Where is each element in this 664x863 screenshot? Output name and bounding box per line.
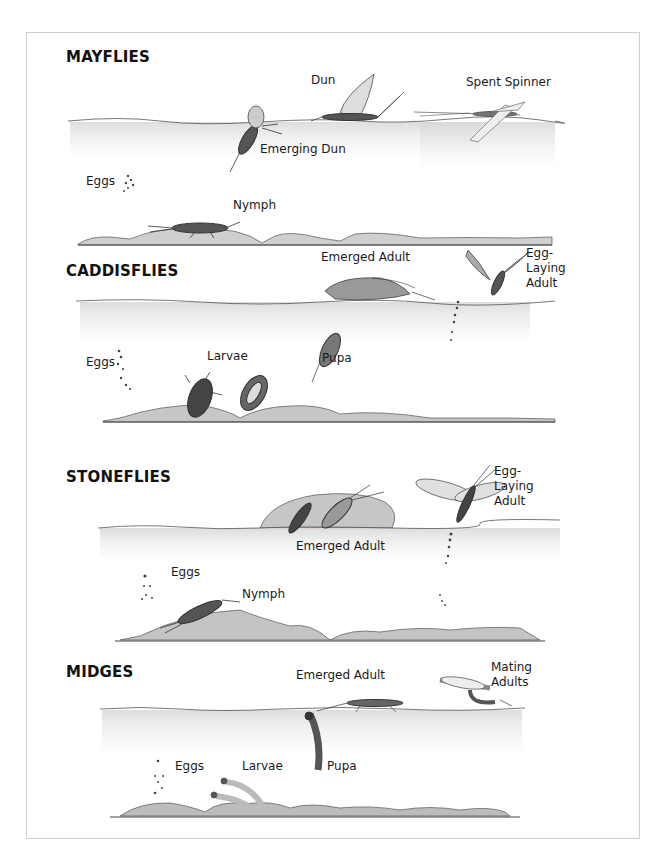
stream-bed	[120, 803, 510, 816]
label-midge-pupa: Pupa	[327, 759, 357, 774]
eggs-cluster	[123, 175, 134, 192]
stream-bed	[78, 228, 552, 245]
label-mayfly-emerging-dun: Emerging Dun	[260, 142, 346, 157]
label-midge-larvae: Larvae	[242, 759, 283, 774]
label-caddis-pupa: Pupa	[322, 351, 352, 366]
label-caddis-egg-laying-adult: Egg- Laying Adult	[526, 246, 566, 291]
caddis-emerged-adult	[325, 278, 435, 300]
eggs-cluster	[117, 350, 131, 390]
label-stonefly-emerged-adult: Emerged Adult	[296, 539, 385, 554]
label-stonefly-eggs: Eggs	[171, 565, 200, 580]
label-midge-emerged-adult: Emerged Adult	[296, 668, 385, 683]
label-midge-eggs: Eggs	[175, 759, 204, 774]
label-stonefly-egg-laying-adult: Egg- Laying Adult	[494, 464, 534, 509]
eggs-cluster	[141, 574, 153, 600]
midges-scene	[100, 674, 525, 817]
section-heading-stoneflies: STONEFLIES	[66, 468, 171, 486]
water-wash	[80, 302, 530, 340]
label-mayfly-spent-spinner: Spent Spinner	[466, 75, 551, 90]
section-heading-mayflies: MAYFLIES	[66, 48, 150, 66]
label-midge-mating-adults: Mating Adults	[491, 660, 532, 690]
stream-bed	[103, 405, 555, 422]
section-heading-caddisflies: CADDISFLIES	[66, 262, 179, 280]
mayflies-scene	[68, 74, 565, 245]
eggs-cluster	[154, 760, 164, 795]
label-mayfly-dun: Dun	[311, 73, 335, 88]
insect-life-cycle-illustration	[0, 0, 664, 863]
label-mayfly-eggs: Eggs	[86, 174, 115, 189]
section-heading-midges: MIDGES	[66, 663, 134, 681]
label-stonefly-nymph: Nymph	[242, 587, 285, 602]
label-caddis-emerged-adult: Emerged Adult	[321, 250, 410, 265]
stream-bed	[120, 610, 540, 640]
label-caddis-eggs: Eggs	[86, 355, 115, 370]
label-mayfly-nymph: Nymph	[233, 198, 276, 213]
label-caddis-larvae: Larvae	[207, 349, 248, 364]
